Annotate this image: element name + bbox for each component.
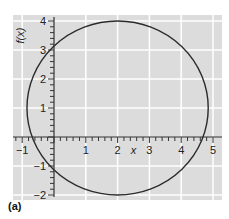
x-axis-title: x [130, 144, 137, 156]
y-axis-title: f(x) [14, 27, 26, 43]
y-tick-label: 4 [40, 15, 46, 27]
y-tick-label: −2 [33, 189, 46, 200]
chart: −112345−2−11234 x f(x) [0, 0, 229, 200]
x-tick-label: 5 [210, 144, 216, 156]
x-tick-label: −1 [16, 144, 29, 156]
x-tick-label: 2 [115, 144, 121, 156]
y-tick-label: −1 [33, 160, 46, 172]
x-tick-label: 1 [83, 144, 89, 156]
y-tick-label: 2 [40, 73, 46, 85]
y-tick-label: 1 [40, 102, 46, 114]
x-tick-label: 4 [178, 144, 184, 156]
y-tick-label: 3 [40, 44, 46, 56]
x-tick-label: 3 [146, 144, 152, 156]
panel-label: (a) [8, 200, 21, 212]
